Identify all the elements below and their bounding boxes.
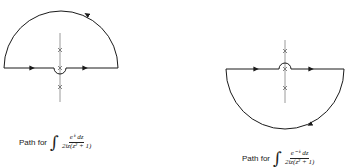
integral-sign: ∫ — [273, 150, 282, 167]
lower-contour-caption: Path for ∫ e⁻ⁱᶻ dz 2iz(z² + 1) — [242, 150, 315, 167]
fraction-denominator: 2iz(z² + 1) — [61, 143, 92, 151]
fraction: eⁱᶻ dz 2iz(z² + 1) — [61, 134, 92, 150]
upper-contour-path — [4, 11, 118, 74]
upper-contour-figure — [4, 11, 118, 102]
caption-prefix: Path for — [242, 154, 270, 163]
caption-prefix: Path for — [19, 138, 47, 147]
lower-contour-figure — [226, 40, 344, 129]
fraction: e⁻ⁱᶻ dz 2iz(z² + 1) — [284, 150, 315, 166]
integral-sign: ∫ — [50, 134, 59, 151]
fraction-denominator: 2iz(z² + 1) — [284, 159, 315, 167]
upper-contour-caption: Path for ∫ eⁱᶻ dz 2iz(z² + 1) — [19, 134, 92, 151]
